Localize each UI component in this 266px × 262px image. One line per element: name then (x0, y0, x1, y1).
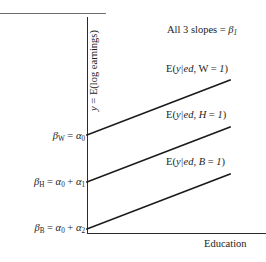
white-regression-line (87, 80, 230, 135)
alpha-subscript-w: 0 (81, 135, 85, 143)
equals-b: = (44, 222, 55, 233)
black-label-suffix: ) (221, 156, 225, 167)
alpha-subscript-b2: 2 (81, 227, 85, 235)
x-axis-label: Education (204, 238, 247, 249)
plus-b: + (65, 222, 76, 233)
alpha-subscript-h1: 1 (81, 181, 85, 189)
hispanic-label-prefix: E( (166, 109, 176, 120)
white-label-prefix: E( (166, 63, 176, 74)
hispanic-regression-line (87, 127, 230, 182)
common-slope-annotation: All 3 slopes = β1 (167, 24, 237, 37)
hispanic-label-conditional: y|ed (176, 109, 193, 120)
beta-subscript-w: W (58, 135, 65, 143)
black-label-equals: = (205, 156, 216, 167)
y-tick-beta-black: βB = α0 + α2 (34, 222, 85, 235)
white-label-suffix: ) (225, 63, 229, 74)
y-axis-label: y = E(log earnings) (88, 21, 99, 121)
equals-h: = (44, 176, 55, 187)
y-tick-beta-white: βW = α0 (53, 130, 85, 143)
white-label-group: W (198, 63, 208, 74)
plus-h: + (65, 176, 76, 187)
equals-w: = (65, 130, 76, 141)
hispanic-label-suffix: ) (223, 109, 227, 120)
common-slope-subscript: 1 (234, 29, 238, 37)
black-line-label: E(y|ed, B = 1) (166, 156, 225, 167)
y-axis-label-rest: = E(log earnings) (88, 30, 99, 106)
hispanic-line-label: E(y|ed, H = 1) (166, 109, 226, 120)
white-label-conditional: y|ed (176, 63, 193, 74)
black-label-conditional: y|ed (176, 156, 193, 167)
y-axis-label-variable: y (88, 106, 99, 111)
common-slope-text: All 3 slopes = (167, 24, 228, 35)
black-label-prefix: E( (166, 156, 176, 167)
black-regression-line (87, 174, 230, 229)
white-line-label: E(y|ed, W = 1) (166, 63, 228, 74)
hispanic-label-equals: = (206, 109, 217, 120)
white-label-equals: = (208, 63, 219, 74)
regression-schematic-figure: y = E(log earnings) βW = α0 βH = α0 + α1… (0, 0, 266, 262)
y-tick-beta-hispanic: βH = α0 + α1 (34, 176, 85, 189)
